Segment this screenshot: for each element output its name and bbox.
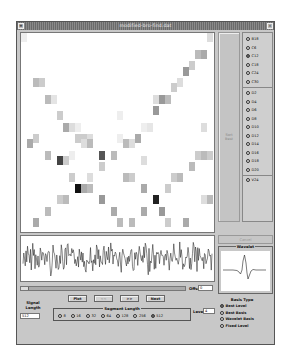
- wavelet-option-d4[interactable]: D4: [246, 99, 257, 105]
- time-frequency-map[interactable]: [20, 32, 215, 233]
- coefficient-cell: [63, 156, 69, 165]
- radio-icon[interactable]: [220, 311, 224, 315]
- wavelet-option-c18[interactable]: C18: [246, 62, 259, 68]
- wavelet-option-d16[interactable]: D16: [246, 150, 259, 156]
- length-label: Length: [25, 305, 41, 310]
- radio-icon[interactable]: [246, 80, 250, 84]
- segment-length-option-512[interactable]: 512: [151, 314, 163, 318]
- coefficient-cell: [165, 218, 171, 227]
- wavelet-option-d12[interactable]: D12: [246, 133, 259, 139]
- option-label: Fixed Level: [226, 324, 249, 328]
- wavelet-option-d10[interactable]: D10: [246, 124, 259, 130]
- radio-icon[interactable]: [246, 134, 250, 138]
- coefficient-cell: [39, 78, 45, 87]
- wavelet-option-d18[interactable]: D18: [246, 158, 259, 164]
- option-label: D4: [252, 100, 257, 104]
- radio-icon[interactable]: [220, 304, 224, 308]
- sort-best-button[interactable]: SortBest: [218, 32, 240, 222]
- coefficient-cell: [69, 173, 75, 182]
- coefficient-cell: [201, 50, 207, 59]
- radio-icon[interactable]: [246, 54, 250, 58]
- option-label: D18: [252, 159, 259, 163]
- radio-icon[interactable]: [220, 324, 224, 328]
- coefficient-cell: [141, 123, 147, 132]
- radio-icon[interactable]: [246, 125, 250, 129]
- radio-icon[interactable]: [246, 100, 250, 104]
- wavelet-option-c12[interactable]: C12: [246, 53, 259, 59]
- radio-icon[interactable]: [86, 314, 90, 318]
- forward-button[interactable]: >>: [120, 295, 139, 302]
- radio-icon[interactable]: [246, 178, 250, 182]
- title-bar[interactable]: ≡ modified-bro-find.dat ×: [17, 22, 274, 30]
- wavelet-option-c24[interactable]: C24: [246, 70, 259, 76]
- option-label: D14: [252, 142, 259, 146]
- option-label: C24: [252, 71, 259, 75]
- option-label: 8: [64, 314, 66, 318]
- radio-icon[interactable]: [246, 46, 250, 50]
- wavelet-option-d14[interactable]: D14: [246, 141, 259, 147]
- signal-length-input[interactable]: 512: [20, 313, 40, 319]
- wavelet-option-c30[interactable]: C30: [246, 79, 259, 85]
- plot-button[interactable]: Plot: [68, 295, 87, 302]
- segment-length-option-8[interactable]: 8: [58, 314, 66, 318]
- option-label: 32: [91, 314, 96, 318]
- radio-icon[interactable]: [71, 314, 75, 318]
- coefficient-cell: [165, 95, 171, 104]
- previous-button[interactable]: <<: [94, 295, 113, 302]
- radio-icon[interactable]: [246, 71, 250, 75]
- wavelet-shape: [221, 251, 268, 289]
- coefficient-cell: [201, 123, 207, 132]
- radio-icon[interactable]: [246, 151, 250, 155]
- app-window: ≡ modified-bro-find.dat × SortBest B18C6…: [16, 21, 275, 345]
- radio-icon[interactable]: [246, 37, 250, 41]
- radio-icon[interactable]: [101, 314, 105, 318]
- radio-icon[interactable]: [246, 117, 250, 121]
- basis-type-group: Basis Type Best LevelBest BasisWavelet B…: [217, 297, 267, 333]
- offset-input[interactable]: 0: [198, 285, 213, 291]
- signal-plot: [20, 235, 215, 282]
- level-input[interactable]: 4: [203, 308, 215, 314]
- basis-type-title: Basis Type: [217, 297, 267, 302]
- coefficient-cell: [45, 151, 51, 160]
- cancel-button[interactable]: Cancel: [218, 235, 273, 244]
- radio-icon[interactable]: [116, 314, 120, 318]
- basis-option-fixed-level[interactable]: Fixed Level: [217, 323, 267, 330]
- wavelet-option-d8[interactable]: D8: [246, 116, 257, 122]
- radio-icon[interactable]: [246, 108, 250, 112]
- wavelet-option-v24[interactable]: V24: [246, 177, 259, 183]
- coefficient-cell: [87, 139, 93, 148]
- radio-icon[interactable]: [58, 314, 62, 318]
- radio-icon[interactable]: [246, 159, 250, 163]
- scrollbar-thumb[interactable]: [21, 287, 29, 290]
- segment-length-option-64[interactable]: 64: [101, 314, 111, 318]
- wavelet-option-d2[interactable]: D2: [246, 90, 257, 96]
- wavelet-plot: [221, 251, 270, 291]
- segment-length-option-16[interactable]: 16: [71, 314, 81, 318]
- radio-icon[interactable]: [246, 63, 250, 67]
- radio-icon[interactable]: [246, 142, 250, 146]
- radio-icon[interactable]: [220, 317, 224, 321]
- radio-icon[interactable]: [246, 91, 250, 95]
- coefficient-cell: [129, 218, 135, 227]
- wavelet-option-d20[interactable]: D20: [246, 167, 259, 173]
- offset-scrollbar[interactable]: [20, 286, 186, 291]
- wavelet-option-c6[interactable]: C6: [246, 45, 256, 51]
- radio-icon[interactable]: [151, 314, 155, 318]
- radio-icon[interactable]: [133, 314, 137, 318]
- coefficient-cell: [207, 151, 213, 160]
- wavelet-option-d6[interactable]: D6: [246, 107, 257, 113]
- coefficient-cell: [207, 195, 213, 204]
- radio-icon[interactable]: [246, 168, 250, 172]
- next-button[interactable]: Next: [146, 295, 165, 302]
- close-icon[interactable]: ×: [267, 23, 273, 29]
- segment-length-option-128[interactable]: 128: [116, 314, 128, 318]
- coefficient-cell: [177, 78, 183, 87]
- coefficient-cell: [165, 184, 171, 193]
- segment-length-option-256[interactable]: 256: [133, 314, 145, 318]
- coefficient-cell: [99, 151, 105, 160]
- wavelet-option-b18[interactable]: B18: [246, 36, 259, 42]
- segment-length-option-32[interactable]: 32: [86, 314, 96, 318]
- coefficient-cell: [177, 173, 183, 182]
- coefficient-cell: [45, 207, 51, 216]
- option-label: C30: [252, 80, 259, 84]
